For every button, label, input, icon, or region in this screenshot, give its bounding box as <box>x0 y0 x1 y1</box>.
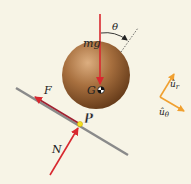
sphere <box>62 41 130 109</box>
weight-label: mg <box>83 37 100 50</box>
contact-point-marker <box>77 121 82 126</box>
friction-label: F <box>43 84 52 97</box>
theta-arc-icon <box>101 33 127 40</box>
friction-arrow <box>35 97 80 124</box>
center-of-mass-icon <box>98 87 105 94</box>
unit-vector-theta-label: ûθ <box>159 107 170 119</box>
angle-reference-line <box>121 28 138 52</box>
unit-vector-r-label: ûr <box>170 79 180 91</box>
sphere-on-incline-diagram: mg θ G F P N ûr ûθ <box>0 0 191 184</box>
normal-force-label: N <box>51 143 62 156</box>
contact-point-label: P <box>83 112 94 126</box>
angle-label: θ <box>112 21 118 32</box>
center-of-mass-label: G <box>87 84 96 97</box>
